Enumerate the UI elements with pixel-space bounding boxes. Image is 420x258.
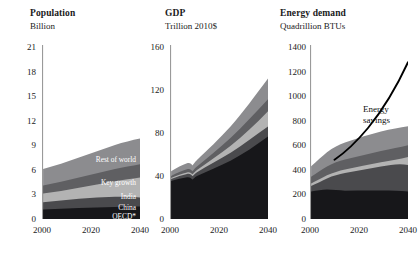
panel-subtitle-gdp: Trillion 2010$	[165, 21, 217, 32]
ytick-energy-200: 200	[276, 190, 306, 199]
ytick-energy-1200: 1200	[276, 68, 306, 77]
ytick-gdp-160: 160	[138, 43, 164, 52]
series-label-china: China	[50, 204, 136, 212]
xtick-population-2020: 2020	[73, 226, 109, 235]
ytick-energy-0: 0	[276, 215, 306, 224]
panel-title-population: Population	[30, 8, 75, 19]
area-oecd	[311, 190, 408, 219]
series-label-india: India	[50, 193, 136, 201]
annotation-energy-savings-line1: Energy	[363, 104, 389, 115]
ytick-energy-1400: 1400	[276, 43, 306, 52]
panel-population: Population Billion 0 3 6 9 12 15 18 21	[0, 0, 140, 258]
xtick-population-2000: 2000	[24, 226, 60, 235]
series-label-key-growth: Key growth	[50, 179, 136, 187]
plot-area-energy	[310, 45, 408, 221]
xtick-energy-2020: 2020	[341, 226, 377, 235]
ytick-population-21: 21	[10, 43, 36, 52]
stacked-areas-energy	[311, 126, 408, 219]
ytick-population-18: 18	[10, 68, 36, 77]
ytick-energy-1000: 1000	[276, 92, 306, 101]
annotation-energy-savings-line2: savings	[363, 115, 390, 126]
ytick-energy-800: 800	[276, 117, 306, 126]
ytick-energy-400: 400	[276, 166, 306, 175]
panel-gdp: GDP Trillion 2010$ 0 40 80 120 160 2000	[140, 0, 280, 258]
panel-subtitle-energy: Quadrillion BTUs	[280, 21, 345, 32]
yaxis-line-population	[42, 45, 43, 219]
ytick-population-6: 6	[10, 166, 36, 175]
ytick-population-12: 12	[10, 117, 36, 126]
xtick-gdp-2000: 2000	[152, 226, 188, 235]
plot-area-gdp	[170, 45, 268, 221]
ytick-population-15: 15	[10, 92, 36, 101]
yaxis-line-energy	[310, 45, 311, 219]
series-label-rest-of-world: Rest of world	[50, 156, 136, 164]
ytick-gdp-40: 40	[138, 172, 164, 181]
ytick-population-9: 9	[10, 141, 36, 150]
ytick-population-3: 3	[10, 190, 36, 199]
panel-subtitle-population: Billion	[30, 21, 55, 32]
xtick-energy-2040: 2040	[390, 226, 420, 235]
panel-energy-demand: Energy demand Quadrillion BTUs 0 200 400…	[280, 0, 420, 258]
panel-title-energy: Energy demand	[280, 8, 346, 19]
series-label-oecd: OECD*	[50, 213, 136, 221]
stacked-areas-gdp	[171, 79, 268, 219]
ytick-energy-600: 600	[276, 141, 306, 150]
yaxis-line-gdp	[170, 45, 171, 219]
ytick-gdp-80: 80	[138, 129, 164, 138]
ytick-gdp-120: 120	[138, 86, 164, 95]
ytick-population-0: 0	[10, 215, 36, 224]
xtick-gdp-2020: 2020	[201, 226, 237, 235]
panel-title-gdp: GDP	[165, 8, 185, 19]
ytick-gdp-0: 0	[138, 215, 164, 224]
figure-three-panel-chart: Population Billion 0 3 6 9 12 15 18 21	[0, 0, 420, 258]
xtick-energy-2000: 2000	[292, 226, 328, 235]
